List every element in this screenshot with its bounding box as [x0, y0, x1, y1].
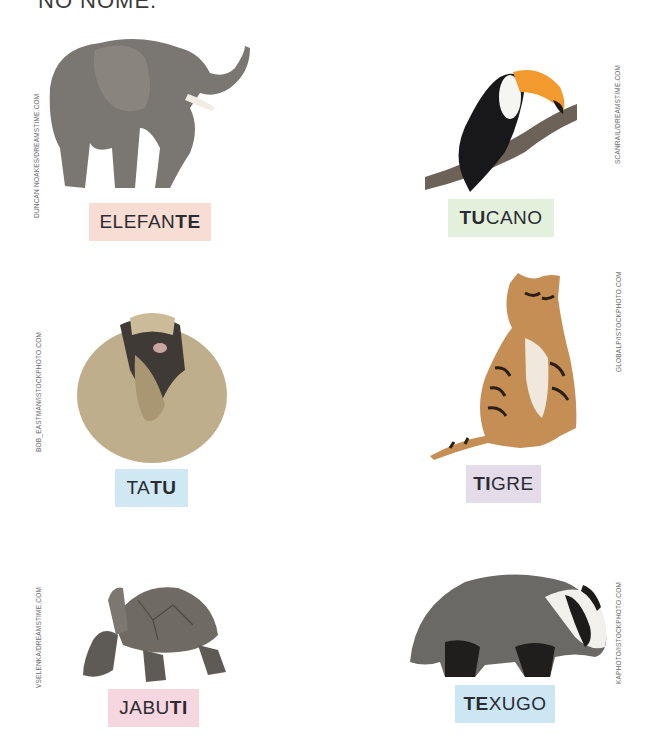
armadillo-image — [75, 310, 230, 465]
photo-credit: GLOBALP/ISTOCKPHOTO.COM — [615, 271, 622, 372]
tortoise-image — [78, 580, 233, 685]
toucan-image — [425, 62, 580, 197]
badger-image — [405, 567, 610, 679]
word-label-elefante: ELEFANTE — [89, 203, 211, 241]
tiger-image — [430, 268, 580, 460]
elephant-image — [40, 28, 260, 198]
photo-credit: BOB_EASTMAN/ISTOCKPHOTO.COM — [35, 332, 42, 452]
word-label-tucano: TUCANO — [448, 199, 554, 237]
word-label-tatu: TATU — [115, 469, 188, 507]
photo-credit: VSELENKA/DREAMSTIME.COM — [35, 587, 42, 688]
word-label-texugo: TEXUGO — [455, 685, 555, 723]
photo-credit: DUNCAN NOAKES/DREAMSTIME.COM — [33, 94, 40, 218]
photo-credit: SCANRAIL/DREAMSTIME.COM — [614, 65, 621, 164]
photo-credit: KAPHOTO/ISTOCKPHOTO.COM — [615, 582, 622, 684]
word-label-jabuti: JABUTI — [108, 689, 199, 727]
instruction-heading: NO NOME. — [38, 0, 157, 14]
word-label-tigre: TIGRE — [466, 465, 541, 503]
